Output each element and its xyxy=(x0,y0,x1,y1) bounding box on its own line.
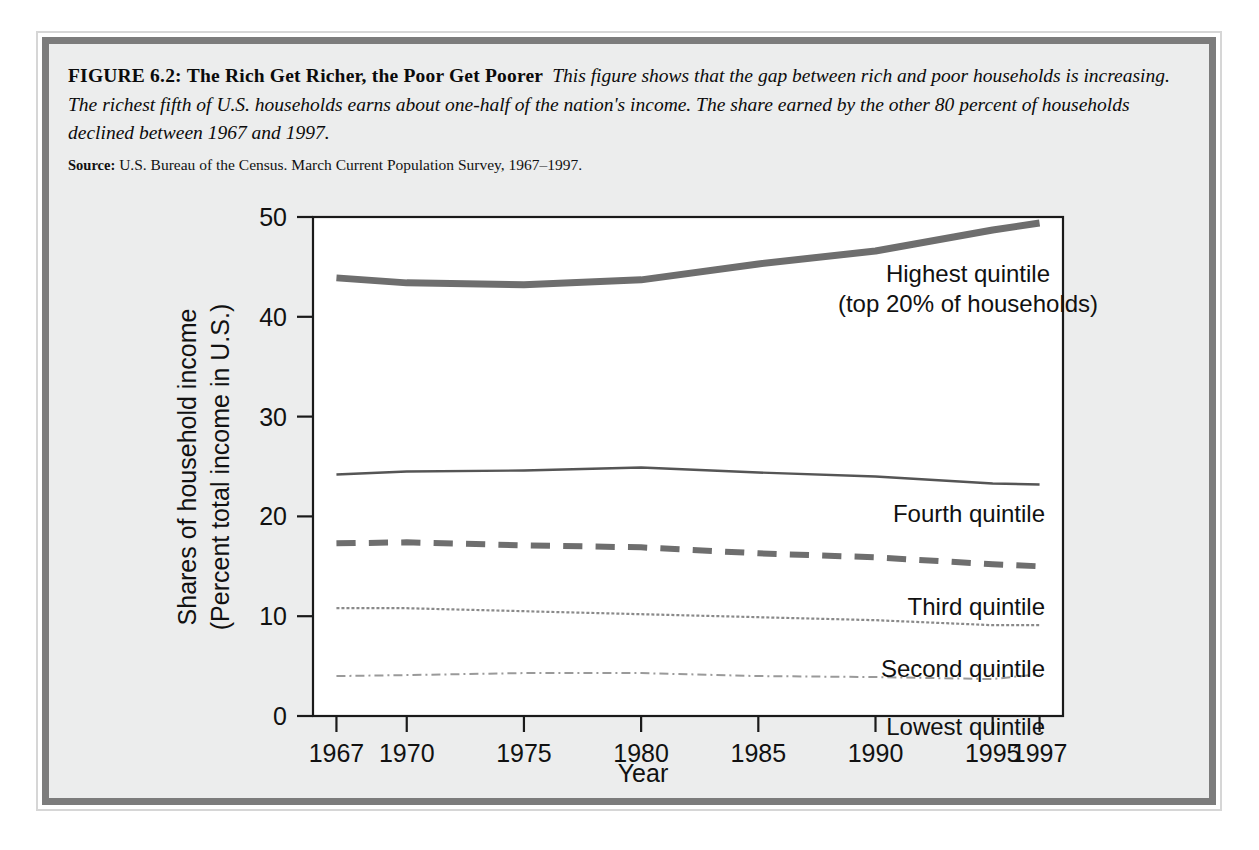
y-tick-label: 40 xyxy=(259,303,287,331)
series-label-third-quintile: Third quintile xyxy=(908,593,1045,620)
y-tick-label: 20 xyxy=(259,502,287,530)
chart-container: 01020304050 1967197019751980198519901995… xyxy=(68,190,1188,790)
figure-root: FIGURE 6.2:The Rich Get Richer, the Poor… xyxy=(0,0,1259,850)
figure-caption: FIGURE 6.2:The Rich Get Richer, the Poor… xyxy=(68,62,1188,175)
x-tick-label: 1967 xyxy=(309,739,365,767)
y-tick-label: 10 xyxy=(259,602,287,630)
y-axis-title-line1: Shares of household income xyxy=(173,309,201,626)
series-label-lowest-quintile: Lowest quintile xyxy=(886,713,1045,740)
y-axis-title-line2: (Percent total income in U.S.) xyxy=(206,304,234,631)
x-axis-title: Year xyxy=(618,759,669,787)
series-label-highest-quintile: Highest quintile xyxy=(886,260,1050,287)
source-text: U.S. Bureau of the Census. March Current… xyxy=(119,156,582,173)
y-tick-label: 50 xyxy=(259,203,287,231)
x-tick-label: 1985 xyxy=(731,739,787,767)
x-tick-label: 1970 xyxy=(379,739,435,767)
x-tick-label: 1997 xyxy=(1012,739,1068,767)
caption-paragraph: FIGURE 6.2:The Rich Get Richer, the Poor… xyxy=(68,62,1188,148)
income-shares-line-chart: 01020304050 1967197019751980198519901995… xyxy=(68,190,1188,790)
x-tick-label: 1990 xyxy=(848,739,904,767)
source-line: Source: U.S. Bureau of the Census. March… xyxy=(68,155,1188,175)
y-tick-label: 0 xyxy=(273,702,287,730)
series-label-highest-quintile-sub: (top 20% of households) xyxy=(838,290,1098,317)
series-label-fourth-quintile: Fourth quintile xyxy=(893,500,1045,527)
y-axis: 01020304050 xyxy=(259,203,313,730)
series-label-second-quintile: Second quintile xyxy=(881,655,1045,682)
y-tick-label: 30 xyxy=(259,403,287,431)
x-tick-label: 1975 xyxy=(496,739,552,767)
source-label: Source: xyxy=(68,157,115,173)
figure-number: FIGURE 6.2: xyxy=(68,65,182,86)
figure-title: The Rich Get Richer, the Poor Get Poorer xyxy=(182,65,543,86)
